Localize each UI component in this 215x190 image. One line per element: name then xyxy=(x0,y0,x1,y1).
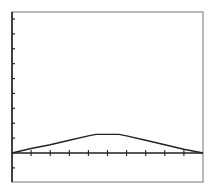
line-chart xyxy=(0,0,215,190)
plot-frame xyxy=(12,12,203,182)
